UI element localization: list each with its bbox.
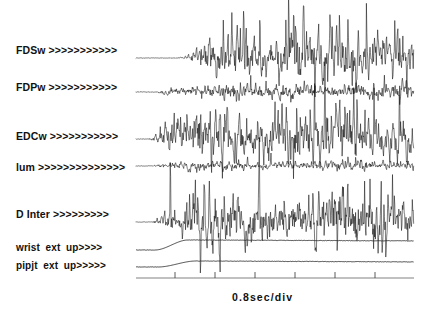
- trace-pipjt-ext-up: [136, 261, 414, 267]
- trace-fdpw: [136, 75, 414, 105]
- trace-lum: [136, 153, 414, 173]
- emg-figure: FDSw >>>>>>>>>>> FDPw >>>>>>>>>>> EDCw >…: [0, 0, 427, 315]
- trace-fdsw: [136, 0, 414, 97]
- trace-edcw: [136, 57, 414, 178]
- trace-wrist-ext-up: [136, 240, 414, 250]
- trace-canvas: [0, 0, 427, 315]
- trace-d-inter: [136, 138, 414, 273]
